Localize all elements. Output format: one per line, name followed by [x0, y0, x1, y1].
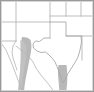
map-thumbnail[interactable]	[0, 0, 94, 92]
map-background	[1, 1, 93, 91]
map-canvas[interactable]	[0, 0, 94, 92]
